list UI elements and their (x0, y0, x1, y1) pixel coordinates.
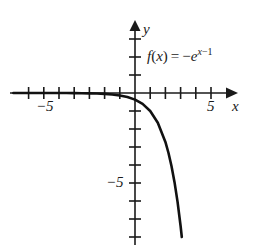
function-curve (13, 93, 181, 237)
figure-container: f(x)=−ex−1 −5 5 −5 x y (0, 0, 261, 252)
equation-exponent-const: 1 (208, 46, 213, 57)
x-axis-label: x (232, 99, 239, 114)
y-tick-label-negative-five: −5 (106, 175, 124, 190)
equation-equals: = (168, 48, 182, 64)
x-tick-label-five: 5 (207, 99, 215, 114)
equation-argument: x (156, 48, 163, 64)
equation-exponent: x−1 (197, 46, 212, 57)
x-tick-label-negative-five: −5 (36, 99, 54, 114)
x-axis-arrow-icon (226, 88, 238, 99)
equation-annotation: f(x)=−ex−1 (147, 48, 213, 65)
y-axis-label: y (143, 22, 150, 37)
equation-sign: − (182, 48, 190, 64)
graph-canvas (0, 0, 261, 252)
y-axis-arrow-icon (130, 20, 141, 31)
